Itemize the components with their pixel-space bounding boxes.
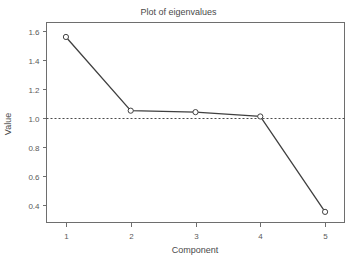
y-axis-label: Value xyxy=(3,113,13,135)
x-tick-label: 1 xyxy=(64,232,69,241)
plot-canvas: Plot of eigenvalues 0.40.60.81.01.21.41.… xyxy=(0,0,357,259)
data-point-marker xyxy=(63,34,68,39)
x-tick-label: 3 xyxy=(194,232,199,241)
y-tick-label: 1.4 xyxy=(28,57,40,66)
y-tick-label: 0.8 xyxy=(28,144,40,153)
y-tick-label: 1.6 xyxy=(28,28,40,37)
x-axis-label: Component xyxy=(172,245,219,255)
data-point-marker xyxy=(258,114,263,119)
y-tick-label: 1.2 xyxy=(28,86,40,95)
x-tick-label: 2 xyxy=(129,232,134,241)
y-tick-label: 0.6 xyxy=(28,173,40,182)
data-point-marker xyxy=(193,110,198,115)
data-point-marker xyxy=(322,209,327,214)
plot-background xyxy=(0,0,357,259)
y-tick-label: 0.4 xyxy=(28,202,40,211)
page-title: Plot of eigenvalues xyxy=(140,7,217,17)
scree-plot-figure: Plot of eigenvalues 0.40.60.81.01.21.41.… xyxy=(0,0,357,259)
x-tick-label: 5 xyxy=(323,232,328,241)
y-tick-label: 1.0 xyxy=(28,115,40,124)
data-point-marker xyxy=(128,108,133,113)
x-tick-label: 4 xyxy=(258,232,263,241)
